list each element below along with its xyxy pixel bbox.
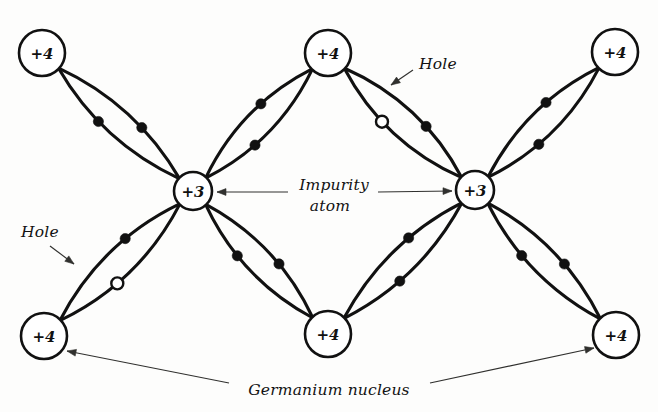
bond-arc (344, 68, 462, 178)
arrowhead (217, 189, 226, 196)
bond-arc (206, 69, 313, 178)
nucleus-charge-label: +4 (316, 45, 339, 63)
label-impurity-atom: Impurityatom (217, 176, 452, 215)
nucleus-imp-right: +3 (456, 171, 494, 209)
electron-dot (93, 116, 103, 126)
bond-arc (344, 203, 462, 319)
covalent-bond (58, 68, 180, 179)
annotation-text: Hole (418, 55, 457, 73)
electron-dot (137, 123, 147, 133)
nucleus-ge-bottom-center: +4 (305, 311, 351, 357)
electron-dot (517, 251, 527, 261)
covalent-bond (206, 69, 313, 178)
leader-line (430, 348, 594, 383)
nucleus-ge-bottom-right: +4 (593, 312, 639, 358)
nucleus-charge-label: +4 (604, 327, 627, 345)
arrowhead (65, 256, 74, 264)
bond-arc (58, 68, 180, 179)
bond-arc (344, 203, 462, 319)
bonds-layer (58, 67, 601, 320)
annotations-layer: HoleHoleImpurityatomGermanium nucleus (20, 55, 594, 399)
electron-dot (395, 276, 405, 286)
bond-arc (58, 68, 180, 179)
covalent-bond (488, 203, 601, 319)
label-hole-bottom: Hole (20, 223, 74, 264)
arrowhead (67, 349, 77, 356)
annotation-text: Impurity (298, 176, 369, 194)
bond-arc (488, 203, 601, 319)
bond-arc (488, 67, 600, 177)
bond-arc (344, 68, 462, 178)
electron-dot (421, 121, 431, 131)
nucleus-imp-left: +3 (174, 172, 212, 210)
electron-dot (232, 251, 242, 261)
electron-dot (404, 233, 414, 243)
arrowhead (585, 347, 595, 354)
covalent-bond (205, 204, 313, 318)
semiconductor-bond-diagram: +4+4+4+3+3+4+4+4 HoleHoleImpurityatomGer… (0, 0, 658, 412)
bond-arc (205, 204, 313, 318)
nucleus-charge-label: +3 (181, 183, 204, 201)
covalent-bond (60, 204, 180, 321)
nucleus-charge-label: +4 (316, 326, 339, 344)
leader-line (67, 351, 229, 383)
covalent-bond (488, 67, 600, 177)
nucleus-charge-label: +3 (463, 182, 486, 200)
electron-dot (120, 234, 130, 244)
diagram-canvas: +4+4+4+3+3+4+4+4 HoleHoleImpurityatomGer… (0, 0, 658, 412)
annotation-text: atom (310, 197, 350, 215)
nuclei-layer: +4+4+4+3+3+4+4+4 (19, 29, 639, 359)
bond-arc (60, 204, 180, 321)
annotation-text: Hole (20, 223, 59, 241)
bond-arc (205, 204, 313, 318)
hole-marker (376, 116, 388, 128)
electron-dot (250, 140, 260, 150)
covalent-bond (344, 203, 462, 319)
bond-arc (206, 69, 313, 178)
arrowhead (391, 77, 400, 85)
hole-marker (111, 277, 123, 289)
covalent-bond (344, 68, 462, 178)
nucleus-ge-top-right: +4 (592, 29, 638, 75)
nucleus-ge-bottom-left: +4 (21, 313, 67, 359)
bond-arc (488, 203, 601, 319)
electron-dot (256, 99, 266, 109)
leader-line (378, 191, 452, 192)
nucleus-charge-label: +4 (32, 328, 55, 346)
nucleus-charge-label: +4 (30, 45, 53, 63)
electron-dot (534, 139, 544, 149)
nucleus-ge-top-left: +4 (19, 30, 65, 76)
label-hole-top: Hole (391, 55, 457, 85)
arrowhead (443, 188, 452, 195)
bond-arc (60, 204, 180, 321)
electron-dot (541, 97, 551, 107)
electron-dot (559, 259, 569, 269)
nucleus-ge-top-center: +4 (305, 30, 351, 76)
nucleus-charge-label: +4 (603, 44, 626, 62)
electron-dot (274, 259, 284, 269)
annotation-text: Germanium nucleus (248, 381, 410, 399)
bond-arc (488, 67, 600, 177)
